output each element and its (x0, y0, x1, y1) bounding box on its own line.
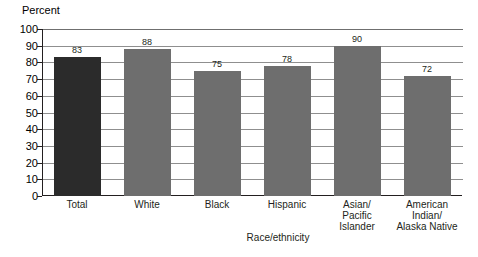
x-category-label: Black (182, 199, 252, 210)
bar-value-label: 88 (124, 37, 171, 47)
bar-value-label: 72 (404, 64, 451, 74)
y-axis-ticks: 1009080706050403020100 (0, 29, 38, 196)
bar[interactable] (124, 49, 171, 196)
y-tick-label: 70 (4, 74, 38, 85)
y-tick-label: 0 (4, 191, 38, 202)
y-tick-label: 20 (4, 158, 38, 169)
bar-value-label: 90 (334, 34, 381, 44)
y-tick-label: 50 (4, 108, 38, 119)
x-category-label: White (112, 199, 182, 210)
bar-slot: 90 (334, 29, 381, 196)
y-tick-label: 80 (4, 57, 38, 68)
x-axis-title: Race/ethnicity (232, 232, 324, 244)
x-category-label: Hispanic (252, 199, 322, 210)
x-category-label: Asian/ Pacific Islander (322, 199, 392, 232)
y-tick-label: 40 (4, 124, 38, 135)
bar-slot: 75 (194, 29, 241, 196)
y-tick-mark (37, 196, 42, 197)
y-axis-title: Percent (22, 4, 60, 17)
bar[interactable] (54, 57, 101, 196)
bar-value-label: 75 (194, 59, 241, 69)
y-tick-label: 90 (4, 41, 38, 52)
bar-slot: 78 (264, 29, 311, 196)
bar-value-label: 78 (264, 54, 311, 64)
x-category-label: American Indian/ Alaska Native (392, 199, 462, 232)
y-tick-label: 30 (4, 141, 38, 152)
bar[interactable] (404, 76, 451, 196)
bar-value-label: 83 (54, 45, 101, 55)
bar[interactable] (334, 46, 381, 196)
bar-slot: 88 (124, 29, 171, 196)
x-category-label: Total (42, 199, 112, 210)
bar-slot: 83 (54, 29, 101, 196)
bar-chart: Percent 1009080706050403020100 838875789… (0, 0, 478, 257)
y-tick-label: 10 (4, 174, 38, 185)
y-tick-label: 60 (4, 91, 38, 102)
y-tick-label: 100 (4, 24, 38, 35)
bars-layer: 838875789072 (42, 29, 462, 196)
bar[interactable] (194, 71, 241, 196)
bar-slot: 72 (404, 29, 451, 196)
bar[interactable] (264, 66, 311, 196)
